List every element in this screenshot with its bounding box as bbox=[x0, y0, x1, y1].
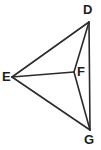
geometry-figure: D E F G bbox=[0, 0, 101, 150]
vertex-label-d: D bbox=[83, 3, 92, 16]
vertex-label-f: F bbox=[77, 65, 85, 78]
geometry-canvas bbox=[0, 0, 101, 150]
segment-EF bbox=[12, 72, 74, 77]
segment-DG bbox=[89, 22, 90, 130]
vertex-label-e: E bbox=[2, 70, 11, 83]
vertex-label-g: G bbox=[84, 133, 94, 146]
